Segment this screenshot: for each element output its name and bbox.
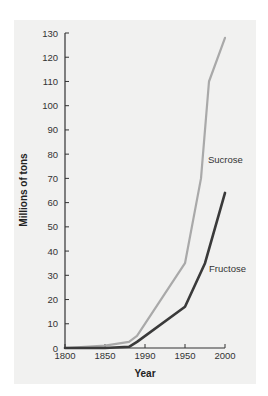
y-axis-title: Millions of tons [18,153,29,227]
y-tick-label: 100 [42,100,58,111]
x-tick-label: 1800 [54,350,75,361]
y-tick-label: 120 [42,52,58,63]
x-tick-label: 1850 [94,350,115,361]
y-tick-label: 80 [47,149,58,160]
y-tick-label: 30 [47,270,58,281]
y-tick-label: 130 [42,28,58,39]
y-tick-label: 10 [47,318,58,329]
y-tick-label: 20 [47,294,58,305]
y-tick-label: 70 [47,173,58,184]
fructose-label: Fructose [209,263,246,274]
sucrose-label: Sucrose [208,154,243,165]
y-tick-label: 40 [47,246,58,257]
x-tick-label: 1990 [134,350,155,361]
x-axis-title: Year [134,368,155,379]
y-tick-label: 60 [47,197,58,208]
x-tick-label: 2000 [214,350,235,361]
line-chart: 0102030405060708090100110120130 18001850… [0,0,268,396]
sucrose-line [65,38,225,348]
y-axis: 0102030405060708090100110120130 [42,28,69,354]
series-lines [65,38,225,348]
x-tick-label: 1950 [174,350,195,361]
y-tick-label: 110 [43,76,58,87]
y-tick-label: 50 [47,221,58,232]
y-tick-label: 90 [47,124,58,135]
